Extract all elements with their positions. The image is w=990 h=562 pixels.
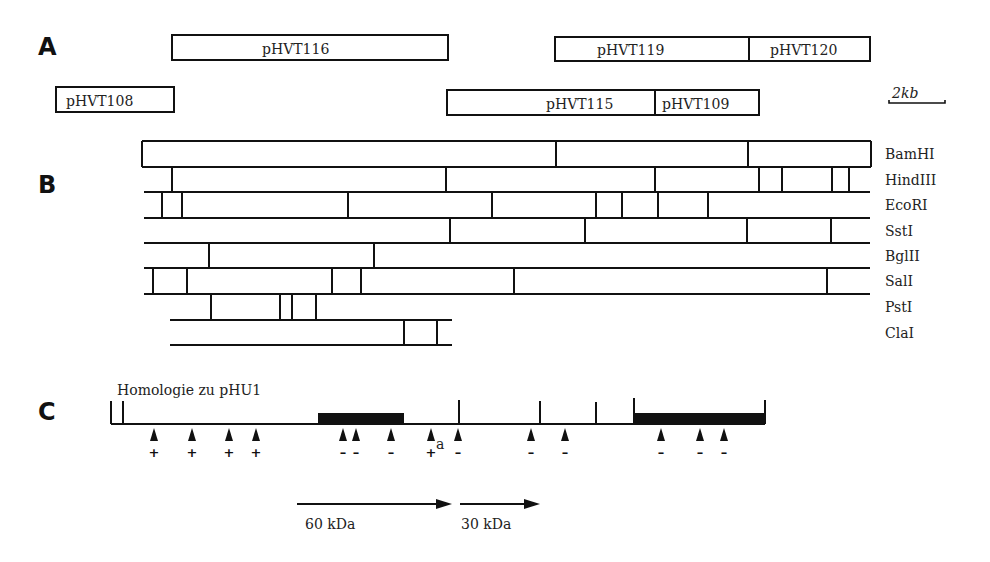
site-arrow: – bbox=[561, 428, 569, 460]
site-sign: + bbox=[224, 445, 235, 460]
arrowhead-up-icon bbox=[188, 428, 196, 441]
arrowhead-up-icon bbox=[352, 428, 360, 441]
enzyme-row-clai: ClaI bbox=[404, 320, 914, 345]
clone-pHVT119: pHVT119 bbox=[555, 37, 749, 61]
protein-label: 30 kDa bbox=[461, 516, 511, 532]
homology-map: Homologie zu pHU1 ++++–––+a–––––– bbox=[111, 382, 765, 460]
arrowhead-up-icon bbox=[339, 428, 347, 441]
clone-label: pHVT108 bbox=[66, 93, 133, 109]
site-arrow: + bbox=[251, 428, 262, 460]
arrowhead-up-icon bbox=[561, 428, 569, 441]
protein-arrow-60-kda: 60 kDa bbox=[297, 499, 452, 532]
site-arrow: – bbox=[657, 428, 665, 460]
site-sign: – bbox=[528, 445, 535, 460]
arrowhead-up-icon bbox=[225, 428, 233, 441]
site-arrow: + bbox=[187, 428, 198, 460]
arrowhead-up-icon bbox=[657, 428, 665, 441]
arrowhead-up-icon bbox=[387, 428, 395, 441]
restriction-map-figure: A B C pHVT116pHVT119pHVT120pHVT108pHVT11… bbox=[0, 0, 990, 562]
clone-pHVT115: pHVT115 bbox=[447, 90, 655, 115]
clone-label: pHVT109 bbox=[662, 96, 729, 112]
protein-label: 60 kDa bbox=[305, 516, 355, 532]
site-sign: + bbox=[149, 445, 160, 460]
site-sign: – bbox=[388, 445, 395, 460]
enzyme-row-sali: SalI bbox=[153, 268, 913, 294]
enzyme-row-bamhi: BamHI bbox=[142, 141, 935, 167]
arrowhead-up-icon bbox=[696, 428, 704, 441]
site-sign: – bbox=[340, 445, 347, 460]
site-arrow: – bbox=[527, 428, 535, 460]
enzyme-row-psti: PstI bbox=[211, 294, 912, 320]
enzyme-label: SalI bbox=[885, 273, 913, 289]
clone-map: pHVT116pHVT119pHVT120pHVT108pHVT115pHVT1… bbox=[56, 35, 870, 115]
enzyme-row-ssti: SstI bbox=[450, 218, 913, 243]
scale-bar-label: 2kb bbox=[891, 85, 918, 101]
site-arrow: + bbox=[224, 428, 235, 460]
site-sign: – bbox=[455, 445, 462, 460]
enzyme-label: BglII bbox=[885, 248, 920, 264]
site-arrow: – bbox=[339, 428, 347, 460]
arrowhead-up-icon bbox=[150, 428, 158, 441]
site-arrow: – bbox=[696, 428, 704, 460]
clone-pHVT108: pHVT108 bbox=[56, 87, 174, 112]
arrowhead-up-icon bbox=[454, 428, 462, 441]
clone-pHVT116: pHVT116 bbox=[172, 35, 448, 60]
clone-label: pHVT115 bbox=[546, 96, 613, 112]
homology-title: Homologie zu pHU1 bbox=[117, 382, 261, 398]
enzyme-row-bglii: BglII bbox=[209, 243, 920, 268]
site-sign: + bbox=[187, 445, 198, 460]
homology-region bbox=[318, 413, 404, 425]
enzyme-label: PstI bbox=[885, 299, 912, 315]
site-note: a bbox=[436, 436, 444, 452]
homology-region bbox=[634, 413, 765, 425]
scale-bar: 2kb bbox=[889, 85, 945, 103]
panel-label-b: B bbox=[38, 171, 56, 199]
arrowhead-up-icon bbox=[527, 428, 535, 441]
arrowhead-up-icon bbox=[252, 428, 260, 441]
protein-arrow-30-kda: 30 kDa bbox=[460, 499, 540, 532]
enzyme-row-ecori: EcoRI bbox=[162, 192, 928, 218]
arrowhead-up-icon bbox=[427, 428, 435, 441]
arrowhead-up-icon bbox=[720, 428, 728, 441]
enzyme-label: ClaI bbox=[885, 325, 914, 341]
site-arrow: – bbox=[454, 428, 462, 460]
enzyme-label: SstI bbox=[885, 223, 913, 239]
clone-label: pHVT120 bbox=[770, 42, 837, 58]
site-arrow: + bbox=[149, 428, 160, 460]
arrow-right-icon bbox=[524, 499, 540, 509]
site-sign: – bbox=[562, 445, 569, 460]
clone-pHVT120: pHVT120 bbox=[749, 37, 870, 61]
clone-pHVT109: pHVT109 bbox=[655, 90, 759, 115]
site-sign: – bbox=[658, 445, 665, 460]
site-sign: + bbox=[426, 445, 437, 460]
clone-label: pHVT119 bbox=[597, 42, 664, 58]
panel-label-a: A bbox=[38, 33, 57, 61]
panel-label-c: C bbox=[38, 398, 56, 426]
clone-label: pHVT116 bbox=[262, 41, 329, 57]
enzyme-label: HindIII bbox=[885, 172, 936, 188]
site-arrow: – bbox=[387, 428, 395, 460]
restriction-map: BamHIHindIIIEcoRISstIBglIISalIPstIClaI bbox=[142, 141, 936, 345]
arrow-right-icon bbox=[436, 499, 452, 509]
site-arrow: +a bbox=[426, 428, 445, 460]
enzyme-label: EcoRI bbox=[885, 197, 928, 213]
enzyme-label: BamHI bbox=[885, 146, 935, 162]
site-sign: + bbox=[251, 445, 262, 460]
site-sign: – bbox=[353, 445, 360, 460]
site-sign: – bbox=[721, 445, 728, 460]
site-arrow: – bbox=[352, 428, 360, 460]
site-arrow: – bbox=[720, 428, 728, 460]
protein-arrows: 60 kDa30 kDa bbox=[297, 499, 540, 532]
site-sign: – bbox=[697, 445, 704, 460]
enzyme-row-hindiii: HindIII bbox=[172, 167, 936, 192]
